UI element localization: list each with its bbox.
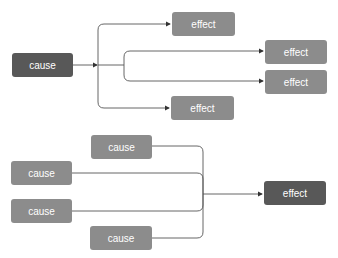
effect-node[interactable]: effect [265, 70, 327, 94]
effect-node[interactable]: effect [265, 40, 327, 64]
cause-node[interactable]: cause [11, 161, 72, 185]
effect-node[interactable]: effect [172, 12, 235, 36]
effect-node[interactable]: effect [171, 96, 234, 120]
cause-node[interactable]: cause [91, 135, 152, 159]
cause-node[interactable]: cause [11, 199, 72, 223]
cause-node[interactable]: cause [12, 53, 73, 77]
cause-node[interactable]: cause [90, 226, 152, 250]
effect-node[interactable]: effect [264, 181, 326, 205]
